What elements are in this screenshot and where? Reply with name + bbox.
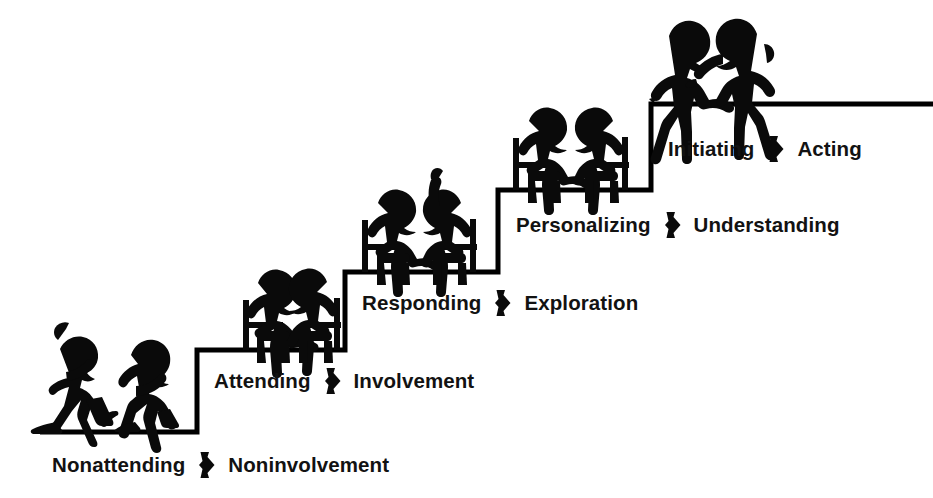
step-label-attending: Attending Involvement <box>214 368 474 394</box>
right-pennant-arrow-icon <box>664 212 681 238</box>
right-pennant-arrow-icon <box>767 136 784 162</box>
right-pennant-arrow-icon <box>494 290 511 316</box>
figure-group-attending <box>243 269 341 378</box>
figure-seated-right-3 <box>573 108 624 215</box>
helper-label-initiating: Initiating <box>668 139 754 160</box>
helpee-label-understanding: Understanding <box>694 215 840 236</box>
figure-group-personalizing <box>513 108 629 215</box>
right-pennant-arrow-icon <box>324 368 341 394</box>
step-label-nonattending: Nonattending Noninvolvement <box>52 452 389 478</box>
step-label-personalizing: Personalizing Understanding <box>516 212 840 238</box>
figure-seated-right-2-hand-raised <box>421 168 472 297</box>
figure-group-responding <box>362 168 477 297</box>
helpee-label-involvement: Involvement <box>354 371 475 392</box>
staircase-illustration <box>0 0 933 498</box>
helpee-label-exploration: Exploration <box>524 293 638 314</box>
step-label-responding: Responding Exploration <box>362 290 638 316</box>
helper-label-responding: Responding <box>362 293 481 314</box>
figure-child-walking <box>31 322 119 447</box>
figure-child-crouching <box>115 340 179 453</box>
helpee-label-noninvolvement: Noninvolvement <box>228 455 389 476</box>
helper-label-nonattending: Nonattending <box>52 455 185 476</box>
right-pennant-arrow-icon <box>198 452 215 478</box>
helpee-label-acting: Acting <box>797 139 861 160</box>
step-label-initiating: Initiating Acting <box>668 136 862 162</box>
helper-label-attending: Attending <box>214 371 311 392</box>
diagram-canvas: Nonattending Noninvolvement Attending In… <box>0 0 933 498</box>
helper-label-personalizing: Personalizing <box>516 215 651 236</box>
